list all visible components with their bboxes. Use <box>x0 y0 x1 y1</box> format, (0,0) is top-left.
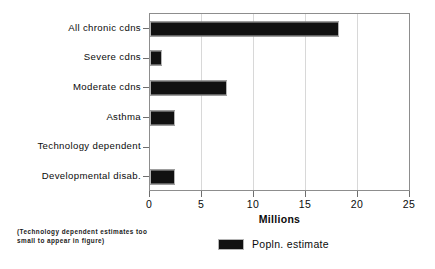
x-axis-tick-label-5: 5 <box>186 198 216 210</box>
bar-severe-cdns[interactable] <box>150 51 162 66</box>
y-axis-label-all-chronic-cdns: All chronic cdns <box>0 13 141 43</box>
bar-developmental-disab[interactable] <box>150 170 175 185</box>
legend-label-popln-estimate: Popln. estimate <box>252 238 329 250</box>
y-axis-tick <box>143 176 149 177</box>
x-axis-tick-label-0: 0 <box>134 198 164 210</box>
y-axis-label-developmental-disab: Developmental disab. <box>0 161 141 191</box>
y-axis-tick <box>143 28 149 29</box>
x-axis-tick-label-25: 25 <box>394 198 424 210</box>
y-axis-label-text: Technology dependent <box>4 141 141 151</box>
bar-row <box>150 133 409 163</box>
plot-area <box>149 13 410 191</box>
bar-row <box>150 73 409 103</box>
x-axis-title: Millions <box>149 213 410 225</box>
y-axis-label-text: All chronic cdns <box>4 23 141 33</box>
y-axis-label-text: Moderate cdns <box>4 82 141 92</box>
x-axis-tick <box>149 191 150 197</box>
y-axis-label-asthma: Asthma <box>0 102 141 132</box>
footnote: (Technology dependent estimates too smal… <box>17 228 167 245</box>
x-axis-tick-label-10: 10 <box>238 198 268 210</box>
y-axis-label-moderate-cdns: Moderate cdns <box>0 72 141 102</box>
x-axis-tick <box>409 191 410 197</box>
y-axis-tick <box>143 117 149 118</box>
x-axis-tick <box>357 191 358 197</box>
bar-row <box>150 162 409 192</box>
y-axis-tick <box>143 87 149 88</box>
bar-chart: All chronic cdns Severe cdns Moderate cd… <box>0 0 435 269</box>
bar-row <box>150 103 409 133</box>
bar-all-chronic-cdns[interactable] <box>150 21 339 36</box>
x-axis-tick <box>201 191 202 197</box>
bar-asthma[interactable] <box>150 110 175 125</box>
y-axis-label-text: Asthma <box>4 112 141 122</box>
y-axis-labels: All chronic cdns Severe cdns Moderate cd… <box>0 13 141 191</box>
x-axis-tick <box>253 191 254 197</box>
legend: Popln. estimate <box>218 238 329 250</box>
x-axis-tick <box>305 191 306 197</box>
y-axis-label-technology-dependent: Technology dependent <box>0 132 141 162</box>
bar-row <box>150 44 409 74</box>
x-axis-tick-label-20: 20 <box>342 198 372 210</box>
y-axis-label-text: Severe cdns <box>4 52 141 62</box>
bar-moderate-cdns[interactable] <box>150 81 227 96</box>
y-axis-tick <box>143 58 149 59</box>
y-axis-label-text: Developmental disab. <box>4 171 141 181</box>
y-axis-tick <box>143 147 149 148</box>
y-axis-label-severe-cdns: Severe cdns <box>0 43 141 73</box>
x-axis-tick-label-15: 15 <box>290 198 320 210</box>
legend-swatch-popln-estimate <box>218 239 244 250</box>
bar-row <box>150 14 409 44</box>
